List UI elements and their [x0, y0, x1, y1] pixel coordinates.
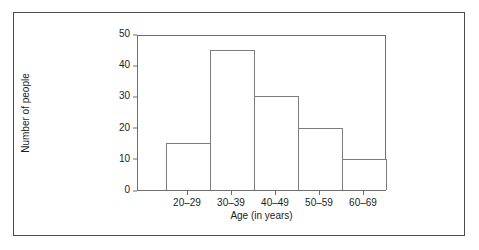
x-tick-mark: [319, 191, 320, 195]
histogram-bar: [254, 96, 299, 190]
x-tick-label: 60–69: [349, 197, 377, 209]
histogram-bar: [166, 143, 211, 190]
y-tick-label: 0: [124, 184, 130, 196]
histogram-bar: [342, 159, 387, 190]
bars-layer: [138, 36, 385, 190]
histogram-chart: Number of people 01020304050 20–2930–394…: [14, 13, 466, 237]
plot-area: [137, 35, 386, 191]
x-tick-label: 30–39: [217, 197, 245, 209]
x-tick-label: 20–29: [173, 197, 201, 209]
y-tick-label: 50: [119, 28, 130, 40]
x-tick-mark: [187, 191, 188, 195]
y-tick-label: 10: [119, 152, 130, 164]
x-tick-mark: [275, 191, 276, 195]
x-tick-mark: [363, 191, 364, 195]
histogram-bar: [298, 128, 343, 190]
x-tick-label: 40–49: [261, 197, 289, 209]
x-axis-title: Age (in years): [137, 209, 386, 222]
y-axis-tick-group: 01020304050: [14, 13, 137, 237]
y-tick-label: 30: [119, 90, 130, 102]
y-tick-label: 40: [119, 59, 130, 71]
histogram-bar: [210, 50, 255, 190]
x-tick-mark: [231, 191, 232, 195]
x-tick-label: 50–59: [305, 197, 333, 209]
y-tick-label: 20: [119, 121, 130, 133]
figure-frame: Number of people 01020304050 20–2930–394…: [13, 12, 465, 236]
